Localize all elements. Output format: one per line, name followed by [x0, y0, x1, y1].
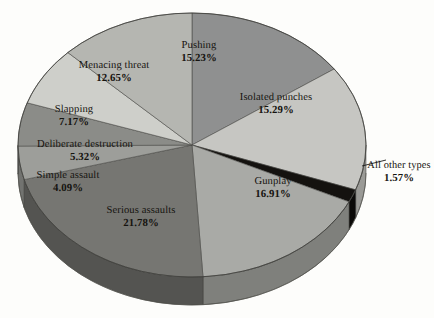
slice-label-percent: 1.57%: [366, 172, 432, 184]
slice-label-name: Pushing: [156, 40, 242, 52]
slice-label-name: Slapping: [34, 104, 114, 116]
slice-label-name: Menacing threat: [58, 60, 170, 72]
slice-label-menacing-threat: Menacing threat 12.65%: [58, 60, 170, 84]
slice-label-percent: 21.78%: [86, 217, 196, 229]
slice-label-percent: 4.09%: [16, 182, 120, 194]
slice-label-percent: 16.91%: [232, 188, 314, 200]
slice-label-name: All other types: [366, 160, 432, 172]
slice-label-isolated-punches: Isolated punches 15.29%: [222, 92, 330, 116]
slice-label-serious-assaults: Serious assaults 21.78%: [86, 205, 196, 229]
slice-label-percent: 7.17%: [34, 116, 114, 128]
slice-label-name: Isolated punches: [222, 92, 330, 104]
slice-label-name: Serious assaults: [86, 205, 196, 217]
slice-label-all-other-types: All other types 1.57%: [366, 160, 432, 184]
slice-label-name: Gunplay: [232, 176, 314, 188]
slice-label-percent: 15.29%: [222, 104, 330, 116]
pie-chart-figure: Pushing 15.23% Isolated punches 15.29% A…: [0, 0, 434, 318]
slice-label-name: Deliberate destruction: [18, 139, 152, 151]
slice-label-percent: 12.65%: [58, 72, 170, 84]
slice-label-percent: 5.32%: [18, 151, 152, 163]
slice-label-deliberate-destruction: Deliberate destruction 5.32%: [18, 139, 152, 163]
slice-label-gunplay: Gunplay 16.91%: [232, 176, 314, 200]
slice-label-simple-assault: Simple assault 4.09%: [16, 170, 120, 194]
slice-label-slapping: Slapping 7.17%: [34, 104, 114, 128]
slice-label-name: Simple assault: [16, 170, 120, 182]
